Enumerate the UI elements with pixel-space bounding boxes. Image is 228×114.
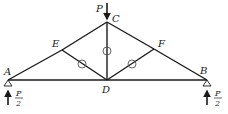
- node-label-d: D: [101, 84, 110, 95]
- load-p-label: P: [95, 3, 103, 14]
- reaction-b-numerator: P: [214, 89, 221, 98]
- support-a-triangle-icon: [4, 80, 12, 86]
- reaction-a-denominator: 2: [15, 99, 21, 108]
- reaction-b-denominator: 2: [214, 99, 220, 108]
- node-label-a: A: [3, 66, 11, 77]
- node-label-e: E: [51, 38, 60, 49]
- member-e-c: [62, 22, 107, 50]
- node-label-b: B: [199, 65, 207, 76]
- member-c-f: [107, 22, 154, 49]
- member-a-e: [8, 50, 62, 80]
- node-label-f: F: [157, 38, 166, 49]
- support-b-triangle-icon: [203, 80, 211, 86]
- reaction-a-numerator: P: [15, 89, 22, 98]
- member-f-d: [107, 49, 154, 80]
- truss-diagram: P P 2 P 2 A B C D E F: [0, 0, 228, 114]
- member-e-d: [62, 50, 107, 80]
- truss-members: [8, 22, 207, 80]
- node-label-c: C: [112, 13, 120, 24]
